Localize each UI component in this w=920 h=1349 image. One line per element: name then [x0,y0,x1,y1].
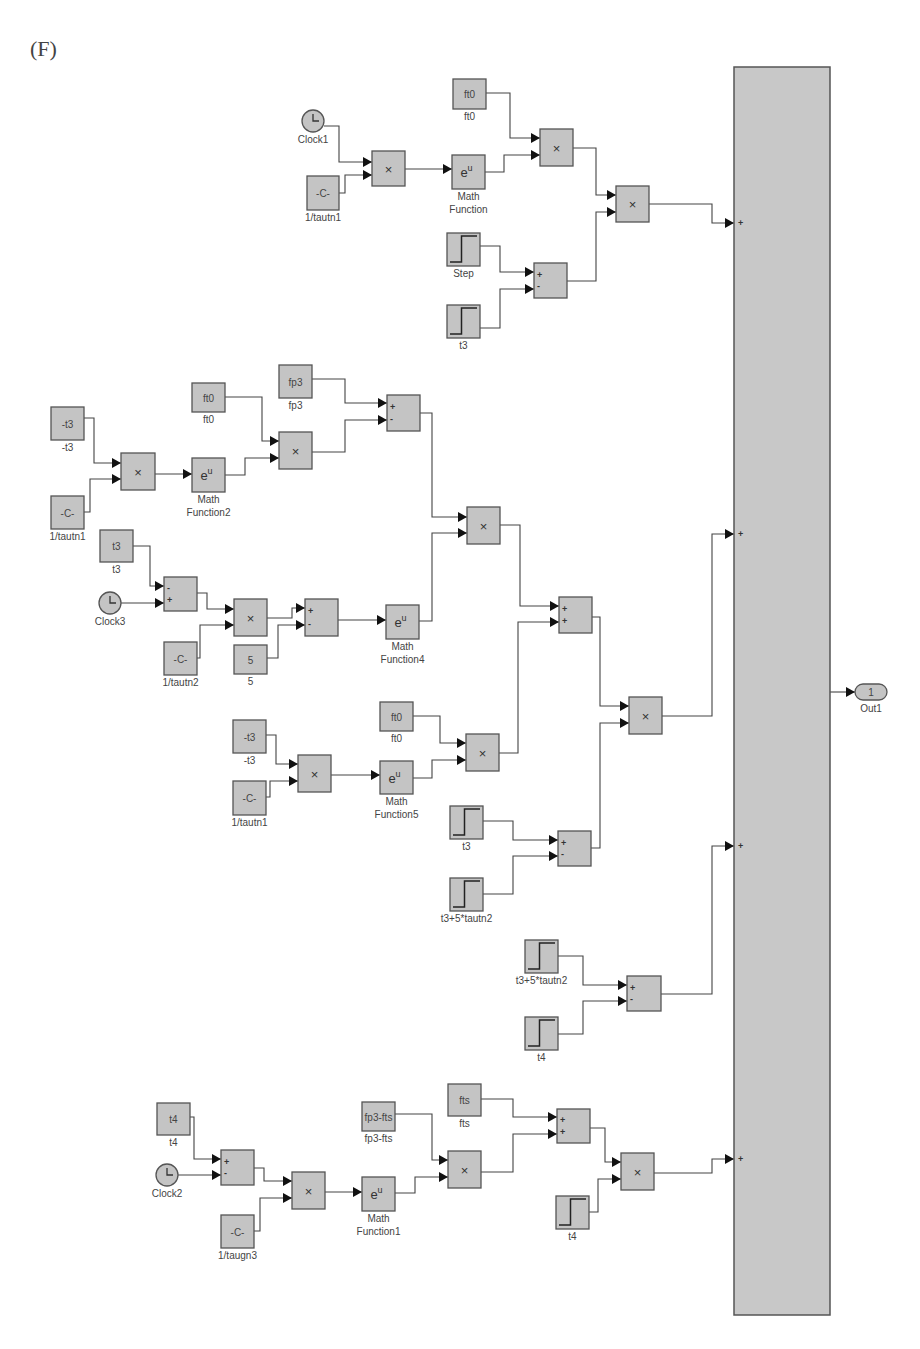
signal-line[interactable] [395,1114,448,1160]
signal-line[interactable] [419,533,467,621]
signal-line[interactable] [483,821,558,840]
signal-line[interactable] [312,420,387,452]
block-e4[interactable]: euMathFunction4 [381,605,425,665]
out1-port[interactable]: 1Out1 [855,684,887,714]
sign-plus: + [560,1127,565,1137]
block-c2[interactable]: -C-1/tautn1 [49,496,86,542]
arrowhead-icon [458,512,467,522]
signal-line[interactable] [499,622,559,753]
block-ft0c[interactable]: ft0ft0 [380,702,413,744]
signal-line[interactable] [500,525,559,606]
signal-line[interactable] [591,723,629,848]
block-clock2[interactable]: Clock2 [152,1164,183,1199]
signal-line[interactable] [590,1128,621,1162]
block-t3b[interactable]: t3t3 [100,530,133,575]
signal-line[interactable] [267,625,305,658]
block-fts[interactable]: ftsfts [448,1084,481,1129]
block-s2[interactable]: +- [387,395,420,431]
block-m12[interactable]: × [448,1151,481,1188]
signal-line[interactable] [589,1179,621,1212]
signal-line[interactable] [567,212,616,281]
block-t3c[interactable]: t3 [450,806,483,852]
block-clock1[interactable]: Clock1 [298,110,329,145]
block-m7[interactable]: × [467,507,500,544]
block-fp3[interactable]: fp3fp3 [279,365,312,411]
sign-minus: - [308,619,311,629]
block-e1[interactable]: euMathFunction [449,155,487,215]
block-t4b[interactable]: t4t4 [157,1103,190,1148]
block-ft0b[interactable]: ft0ft0 [192,383,225,425]
block-t3p5b[interactable]: t3+5*tautn2 [516,940,568,986]
signal-line[interactable] [483,856,558,894]
block-m13[interactable]: × [621,1153,654,1190]
signal-line[interactable] [573,148,616,195]
signal-line[interactable] [592,617,629,706]
block-nt3a[interactable]: -t3-t3 [51,407,84,453]
block-m11[interactable]: × [292,1172,325,1209]
block-m6[interactable]: × [234,599,267,636]
signal-line[interactable] [662,534,734,716]
block-text: t4 [169,1114,178,1125]
signal-line[interactable] [481,1099,557,1117]
block-s9[interactable]: ++ [557,1109,590,1143]
signal-line[interactable] [133,546,164,586]
block-e2[interactable]: euMathFunction2 [187,458,231,518]
block-t4a[interactable]: t4 [525,1017,558,1063]
signal-line[interactable] [197,625,234,658]
block-c3[interactable]: -C-1/tautn2 [162,642,199,688]
signal-line[interactable] [649,204,734,223]
block-five[interactable]: 55 [234,645,267,687]
block-fp3fts[interactable]: fp3-ftsfp3-fts [362,1102,395,1144]
signal-line[interactable] [481,1134,557,1172]
signal-line[interactable] [558,956,627,985]
block-s4[interactable]: +- [305,599,338,636]
signal-line[interactable] [480,289,534,328]
block-s1[interactable]: +- [534,263,567,298]
block-t3a[interactable]: t3 [447,305,480,351]
block-label: 1/tautn1 [231,817,268,828]
signal-line[interactable] [558,1001,627,1034]
block-m9[interactable]: × [298,755,331,792]
signal-line[interactable] [420,413,467,517]
block-s5[interactable]: ++ [559,597,592,633]
block-m2[interactable]: × [540,129,573,166]
block-t3p5a[interactable]: t3+5*tautn2 [441,878,493,924]
signal-line[interactable] [254,1198,292,1231]
signal-line[interactable] [312,379,387,403]
block-m3[interactable]: × [616,186,649,222]
signal-line[interactable] [324,126,372,162]
signal-line[interactable] [654,1159,734,1173]
block-m4[interactable]: × [121,453,155,490]
sign-plus: + [738,218,743,228]
block-m5[interactable]: × [279,432,312,469]
arrowhead-icon [183,469,192,479]
sum-bus-block[interactable]: ++++ [734,67,830,1315]
block-t4c[interactable]: t4 [556,1196,589,1242]
signal-line[interactable] [84,418,121,463]
block-s8[interactable]: +- [221,1150,254,1185]
block-c4[interactable]: -C-1/tautn1 [231,781,268,828]
block-e5[interactable]: euMathFunction5 [375,761,419,820]
block-s7[interactable]: +- [627,976,661,1011]
block-step1[interactable]: Step [447,233,480,279]
block-e1b[interactable]: euMathFunction1 [357,1177,401,1237]
block-label: Function2 [187,507,231,518]
signal-line[interactable] [266,735,298,764]
block-m8[interactable]: × [629,697,662,734]
block-nt3b[interactable]: -t3-t3 [233,720,266,766]
block-ft0a[interactable]: ft0ft0 [453,79,486,122]
block-clock3[interactable]: Clock3 [95,592,126,627]
block-text: fp3 [289,377,303,388]
block-c1[interactable]: -C-1/tautn1 [305,176,342,223]
block-m1[interactable]: × [372,151,405,186]
signal-line[interactable] [661,846,734,994]
signal-line[interactable] [486,93,540,138]
signal-line[interactable] [190,1117,221,1159]
step-block-body [447,233,480,266]
block-s6[interactable]: +- [558,831,591,866]
block-s3[interactable]: -+ [164,577,197,611]
block-m10[interactable]: × [466,734,499,771]
block-c5[interactable]: -C-1/taugn3 [218,1215,257,1261]
signal-line[interactable] [225,397,279,441]
signal-line[interactable] [84,479,121,512]
